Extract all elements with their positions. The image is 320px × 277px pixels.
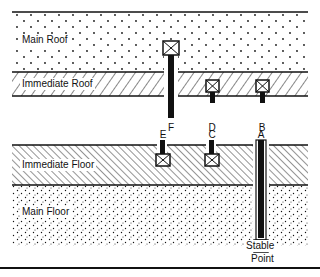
anchor-D [206, 80, 219, 103]
anchor-A-label: A [255, 129, 267, 140]
anchor-E-label: E [157, 129, 169, 140]
anchor-B [256, 80, 269, 103]
stable-point-label-line1: Stable [244, 240, 276, 252]
anchor-A [253, 140, 269, 252]
immediate-floor-label: Immediate Floor [20, 159, 96, 171]
main-floor-label: Main Floor [20, 206, 71, 218]
immediate-roof-label: Immediate Roof [20, 78, 95, 90]
stable-point-label-line2: Point [249, 253, 276, 265]
anchor-C-label: C [206, 129, 218, 140]
anchor-F [163, 41, 179, 118]
main-roof-label: Main Roof [20, 34, 70, 46]
